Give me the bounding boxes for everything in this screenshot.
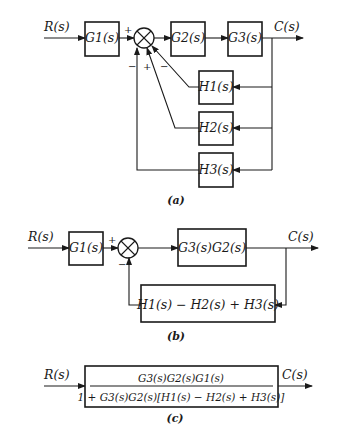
- h3-label: H3(s): [197, 162, 233, 177]
- sum-sign-h1: −: [160, 61, 168, 72]
- g2-label: G2(s): [171, 30, 205, 45]
- g3-label: G3(s): [228, 30, 262, 45]
- transfer-numerator: G3(s)G2(s)G1(s): [138, 372, 224, 384]
- transfer-denominator: 1 + G3(s)G2(s)[H1(s) − H2(s) + H3(s)]: [78, 391, 286, 403]
- output-label: C(s): [282, 367, 308, 382]
- caption-a: (a): [167, 194, 185, 207]
- output-label: C(s): [274, 19, 300, 34]
- diagram-c: R(s) G3(s)G2(s)G1(s) 1 + G3(s)G2(s)[H1(s…: [43, 366, 312, 425]
- feedback-label: H1(s) − H2(s) + H3(s): [136, 297, 279, 312]
- input-label: R(s): [43, 19, 70, 34]
- input-label: R(s): [43, 367, 70, 382]
- forward-label: G3(s)G2(s): [178, 240, 246, 255]
- summing-junction-icon: [134, 28, 154, 48]
- sum-sign-feedback: −: [118, 259, 126, 270]
- h2-feedback-arrow: [147, 48, 199, 128]
- h2-label: H2(s): [197, 120, 233, 135]
- block-diagram-reduction: R(s) G1(s) + G2(s) G3(s) C(s) H1(s) −: [0, 0, 337, 437]
- h1-label: H1(s): [197, 79, 233, 94]
- sum-sign-input: +: [108, 234, 116, 245]
- g1-label: G1(s): [69, 240, 103, 255]
- input-label: R(s): [27, 229, 54, 244]
- summing-junction-icon: [118, 238, 138, 258]
- g1-label: G1(s): [85, 30, 119, 45]
- caption-b: (b): [167, 330, 185, 343]
- diagram-b: R(s) G1(s) + G3(s)G2(s) C(s) H1(s) − H2(…: [27, 229, 318, 343]
- sum-sign-h2: +: [143, 61, 151, 72]
- sum-sign-h3: −: [128, 61, 136, 72]
- sum-sign-input: +: [124, 24, 132, 35]
- diagram-a: R(s) G1(s) + G2(s) G3(s) C(s) H1(s) −: [43, 19, 303, 207]
- caption-c: (c): [166, 412, 183, 425]
- output-label: C(s): [288, 229, 314, 244]
